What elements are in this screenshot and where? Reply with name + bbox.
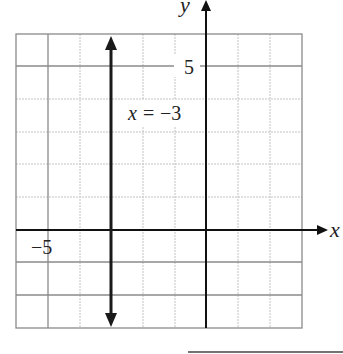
line-label-val: −3 — [160, 102, 181, 124]
line-label-eq: = — [143, 102, 154, 124]
x-axis — [16, 225, 328, 235]
grid-major-lines — [16, 34, 302, 328]
y-tick-label-5: 5 — [184, 56, 194, 78]
x-axis-label: x — [329, 217, 340, 242]
line-x-eq-neg3 — [105, 36, 117, 327]
grid-minor-lines — [16, 34, 302, 328]
coordinate-graph: y x 5 −5 x = −3 — [0, 0, 343, 354]
line-up-arrow-icon — [105, 36, 117, 50]
x-axis-arrow-icon — [317, 225, 328, 235]
line-equation-label: x = −3 — [127, 102, 181, 124]
y-axis-label: y — [178, 0, 190, 17]
line-label-var: x — [127, 102, 137, 124]
y-axis-arrow-icon — [201, 0, 211, 11]
line-down-arrow-icon — [105, 313, 117, 327]
x-tick-label-neg5: −5 — [31, 236, 52, 258]
